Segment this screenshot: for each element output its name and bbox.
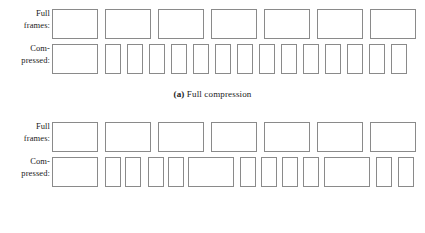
compressed-label-line2: pressed: xyxy=(6,168,50,180)
panel-a-compressed-track xyxy=(52,44,417,76)
panel-b-full-frame-1 xyxy=(52,122,98,152)
full-frames-label-line1: Full xyxy=(36,8,50,18)
panel-b-full-frame-6 xyxy=(317,122,363,152)
panel-a-full-frames-label: Full frames: xyxy=(6,8,50,31)
panel-a-compressed-frame-11 xyxy=(303,44,319,74)
panel-full-compression: Full frames: Com- pressed: (a) Full comp… xyxy=(0,0,425,113)
panel-partial-compression: Full frames: Com- pressed: (b) Partial c… xyxy=(0,113,425,233)
full-frames-label-line2: frames: xyxy=(6,20,50,32)
panel-a-compressed-label: Com- pressed: xyxy=(6,43,50,66)
panel-b-full-frame-7 xyxy=(370,122,416,152)
panel-a-full-frame-3 xyxy=(158,9,204,39)
panel-b-compressed-frame-6 xyxy=(188,157,234,187)
panel-b-compressed-row: Com- pressed: xyxy=(0,157,425,189)
compressed-label-line1: Com- xyxy=(30,43,50,53)
panel-a-full-frame-7 xyxy=(370,9,416,39)
panel-b-compressed-frame-2 xyxy=(105,157,121,187)
panel-b-compressed-frame-11 xyxy=(324,157,370,187)
panel-b-compressed-frame-1 xyxy=(52,157,98,187)
panel-a-compressed-frame-10 xyxy=(281,44,297,74)
panel-b-full-frames-track xyxy=(52,122,417,154)
panel-b-full-frame-4 xyxy=(211,122,257,152)
panel-a-compressed-frame-5 xyxy=(171,44,187,74)
panel-b-compressed-frame-10 xyxy=(303,157,319,187)
panel-a-caption-text: Full compression xyxy=(187,89,252,99)
panel-b-full-frame-2 xyxy=(105,122,151,152)
panel-a-compressed-frame-1 xyxy=(52,44,98,74)
panel-b-compressed-frame-3 xyxy=(125,157,141,187)
panel-a-full-frame-6 xyxy=(317,9,363,39)
panel-b-compressed-frame-8 xyxy=(261,157,277,187)
panel-a-compressed-frame-4 xyxy=(149,44,165,74)
panel-a-full-frame-1 xyxy=(52,9,98,39)
panel-a-compressed-frame-2 xyxy=(105,44,121,74)
panel-a-caption-marker: (a) xyxy=(173,89,184,99)
panel-a-compressed-frame-15 xyxy=(391,44,407,74)
full-frames-label-line1: Full xyxy=(36,121,50,131)
panel-b-full-frames-row: Full frames: xyxy=(0,122,425,154)
panel-b-full-frames-label: Full frames: xyxy=(6,121,50,144)
panel-b-compressed-frame-7 xyxy=(240,157,256,187)
panel-b-compressed-frame-4 xyxy=(148,157,164,187)
panel-b-full-frame-5 xyxy=(264,122,310,152)
panel-a-compressed-frame-12 xyxy=(325,44,341,74)
compressed-label-line2: pressed: xyxy=(6,55,50,67)
panel-a-compressed-frame-3 xyxy=(127,44,143,74)
compressed-label-line1: Com- xyxy=(30,156,50,166)
full-frames-label-line2: frames: xyxy=(6,133,50,145)
panel-a-full-frame-2 xyxy=(105,9,151,39)
panel-b-compressed-frame-13 xyxy=(398,157,414,187)
panel-a-caption: (a) Full compression xyxy=(0,89,425,99)
panel-a-compressed-frame-6 xyxy=(193,44,209,74)
panel-a-compressed-frame-9 xyxy=(259,44,275,74)
panel-a-compressed-row: Com- pressed: xyxy=(0,44,425,76)
panel-a-full-frame-4 xyxy=(211,9,257,39)
panel-b-compressed-frame-9 xyxy=(282,157,298,187)
panel-a-compressed-frame-8 xyxy=(237,44,253,74)
panel-b-compressed-label: Com- pressed: xyxy=(6,156,50,179)
panel-a-full-frames-track xyxy=(52,9,417,41)
panel-a-compressed-frame-13 xyxy=(347,44,363,74)
panel-a-compressed-frame-7 xyxy=(215,44,231,74)
panel-b-compressed-track xyxy=(52,157,417,189)
panel-a-compressed-frame-14 xyxy=(369,44,385,74)
panel-a-full-frames-row: Full frames: xyxy=(0,9,425,41)
panel-b-compressed-frame-12 xyxy=(376,157,392,187)
panel-b-full-frame-3 xyxy=(158,122,204,152)
panel-b-compressed-frame-5 xyxy=(168,157,184,187)
panel-a-full-frame-5 xyxy=(264,9,310,39)
